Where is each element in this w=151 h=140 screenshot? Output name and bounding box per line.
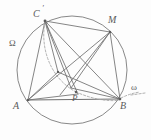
label-b: B: [120, 101, 126, 111]
dashed-arc-to-omega: [121, 92, 140, 98]
point-I: [57, 71, 59, 73]
segment-P-B: [71, 88, 120, 99]
point-A: [27, 99, 30, 102]
point-Cprime: [44, 20, 47, 23]
segment-Cprime-P: [45, 21, 78, 94]
label-m: M: [108, 15, 116, 25]
label-c-prime: C: [33, 9, 40, 19]
segment-Cprime-Q: [45, 21, 71, 88]
segment-Cprime-M: [45, 21, 110, 32]
label-p: P: [72, 94, 78, 103]
segment-M-Pb: [60, 32, 110, 95]
figure-canvas: [0, 0, 151, 140]
segment-A-I: [28, 72, 58, 100]
label-omega-small: ω: [131, 83, 137, 92]
geometry-figure: C ′ M Ω A B P ω: [0, 0, 151, 140]
label-omega-capital: Ω: [9, 39, 16, 48]
point-M: [109, 31, 111, 33]
segment-B-M: [110, 32, 120, 99]
segment-Cprime-I: [45, 21, 58, 72]
label-a: A: [13, 101, 19, 111]
label-c-prime-mark: ′: [42, 5, 44, 13]
